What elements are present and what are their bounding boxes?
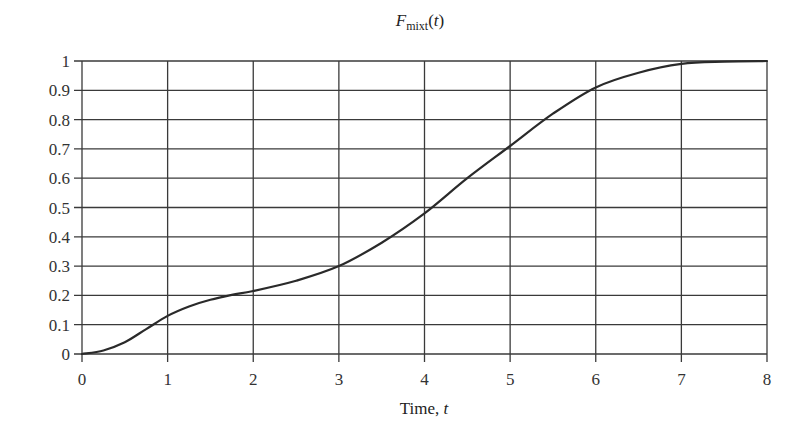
title-subscript: mixt	[406, 19, 429, 33]
title-arg: (t)	[428, 11, 444, 30]
x-tick-label: 1	[163, 370, 172, 389]
chart: 00.10.20.30.40.50.60.70.80.91 012345678 …	[0, 0, 812, 434]
x-tick-label: 3	[335, 370, 344, 389]
y-tick-label: 0.9	[49, 81, 70, 100]
x-axis-tick-labels: 012345678	[78, 370, 772, 389]
x-tick-label: 2	[249, 370, 258, 389]
x-axis-title-var: t	[444, 399, 450, 418]
y-tick-label: 0.4	[49, 228, 71, 247]
x-tick-label: 6	[592, 370, 601, 389]
x-tick-label: 0	[78, 370, 87, 389]
y-tick-label: 0.8	[49, 111, 70, 130]
y-tick-label: 1	[62, 52, 71, 71]
x-tick-label: 8	[763, 370, 772, 389]
x-tick-label: 4	[420, 370, 429, 389]
y-tick-label: 0.3	[49, 257, 70, 276]
y-axis-tick-labels: 00.10.20.30.40.50.60.70.80.91	[49, 52, 71, 364]
y-tick-label: 0.5	[49, 199, 70, 218]
chart-title: Fmixt(t)	[395, 11, 444, 33]
y-tick-label: 0.2	[49, 286, 70, 305]
grid-lines	[74, 61, 767, 362]
y-tick-label: 0.7	[49, 140, 71, 159]
x-axis-title-text: Time,	[400, 399, 444, 418]
y-tick-label: 0.1	[49, 316, 70, 335]
x-axis-title: Time, t	[400, 399, 450, 418]
y-tick-label: 0.6	[49, 169, 70, 188]
y-tick-label: 0	[62, 345, 71, 364]
x-tick-label: 5	[506, 370, 515, 389]
title-main: F	[395, 11, 407, 30]
x-tick-label: 7	[677, 370, 686, 389]
